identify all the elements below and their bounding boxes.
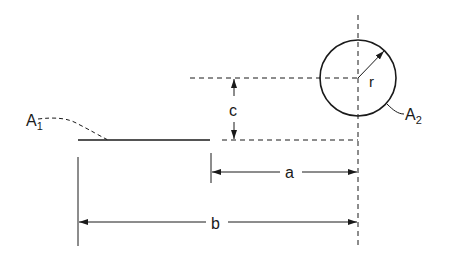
label-a: a <box>285 164 294 181</box>
label-A1: A1 <box>26 112 43 132</box>
label-r: r <box>369 73 374 90</box>
label-c: c <box>229 102 237 119</box>
A2-leader <box>387 104 404 114</box>
A1-leader <box>38 118 108 140</box>
diagram-canvas: A1 A2 r c a b <box>0 0 454 268</box>
label-b: b <box>211 215 220 232</box>
label-A2: A2 <box>405 106 422 126</box>
view-factor-diagram: A1 A2 r c a b <box>0 0 454 268</box>
